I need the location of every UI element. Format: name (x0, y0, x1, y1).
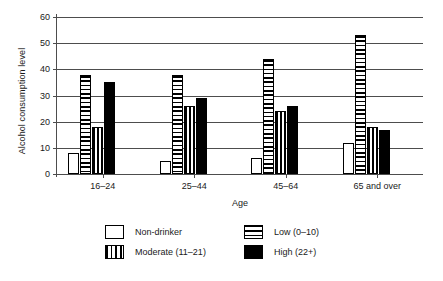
y-tick-mark (53, 174, 57, 175)
legend-item: Non-drinker (105, 222, 226, 242)
bar-groups (57, 17, 423, 174)
x-tick-mark (194, 174, 195, 178)
x-axis-title: Age (57, 198, 423, 208)
x-tick-label: 25–44 (182, 181, 207, 191)
y-tick-label: 40 (40, 64, 50, 74)
y-tick-label: 30 (40, 91, 50, 101)
legend-label: Moderate (11–21) (135, 247, 206, 257)
bar-group (57, 17, 149, 174)
bar-group (332, 17, 424, 174)
bar (184, 106, 195, 174)
bar (343, 143, 354, 174)
legend-label: High (22+) (274, 247, 316, 257)
bar (196, 98, 207, 174)
solid-black-swatch (244, 245, 263, 259)
legend-item: Moderate (11–21) (105, 242, 226, 262)
chart-legend: Non-drinkerLow (0–10)Moderate (11–21)Hig… (105, 222, 365, 262)
x-tick-label: 16–24 (90, 181, 115, 191)
legend-label: Non-drinker (135, 227, 182, 237)
bar (367, 127, 378, 174)
legend-item: Low (0–10) (244, 222, 365, 242)
bar (275, 111, 286, 174)
bar-chart-figure: Alcohol consumption level 0102030405060 … (0, 0, 443, 281)
bar (92, 127, 103, 174)
bar-group (149, 17, 241, 174)
y-axis-title: Alcohol consumption level (17, 21, 27, 181)
bar (263, 59, 274, 174)
bar (104, 82, 115, 174)
x-tick-mark (286, 174, 287, 178)
bar (379, 130, 390, 174)
x-tick-mark (377, 174, 378, 178)
bar (172, 75, 183, 174)
y-tick-label: 0 (45, 169, 50, 179)
legend-label: Low (0–10) (274, 227, 319, 237)
y-tick-label: 50 (40, 38, 50, 48)
legend-item: High (22+) (244, 242, 365, 262)
bar (68, 153, 79, 174)
plot-area: 0102030405060 16–2425–4445–6465 and over (57, 17, 423, 174)
x-tick-mark (103, 174, 104, 178)
bar (287, 106, 298, 174)
bar (80, 75, 91, 174)
vertical-stripes-swatch (105, 245, 124, 259)
bar (160, 161, 171, 174)
bar (251, 158, 262, 174)
horizontal-stripes-swatch (244, 225, 263, 239)
y-tick-label: 60 (40, 12, 50, 22)
bar-group (240, 17, 332, 174)
y-tick-label: 10 (40, 143, 50, 153)
empty-swatch (105, 225, 124, 239)
gridline (57, 174, 423, 175)
bar (355, 35, 366, 174)
y-tick-label: 20 (40, 117, 50, 127)
x-tick-label: 45–64 (273, 181, 298, 191)
x-tick-label: 65 and over (353, 181, 401, 191)
